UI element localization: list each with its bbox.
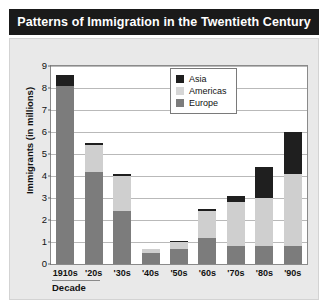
bar-group bbox=[56, 66, 74, 264]
page-title: Patterns of Immigration in the Twentieth… bbox=[17, 15, 310, 29]
bar-segment-americas bbox=[170, 242, 188, 249]
bar-segment-asia bbox=[85, 143, 103, 145]
legend-label-europe: Europe bbox=[189, 99, 218, 108]
x-axis-underline bbox=[52, 280, 100, 281]
y-axis-title: Immigrants (in millions) bbox=[24, 71, 35, 211]
bar-segment-americas bbox=[142, 249, 160, 253]
y-axis-tick-label: 5 bbox=[42, 149, 47, 159]
legend-item-americas: Americas bbox=[176, 85, 227, 97]
bar-segment-europe bbox=[198, 238, 216, 264]
chart-panel: Immigrants (in millions) 0123456789 1910… bbox=[9, 38, 319, 300]
legend-label-asia: Asia bbox=[189, 75, 207, 84]
y-axis-tick-label: 6 bbox=[42, 127, 47, 137]
legend-item-asia: Asia bbox=[176, 73, 227, 85]
chart-figure: Patterns of Immigration in the Twentieth… bbox=[0, 0, 328, 308]
bar-group bbox=[85, 66, 103, 264]
y-axis-tick-label: 7 bbox=[42, 105, 47, 115]
bar-segment-asia bbox=[170, 241, 188, 242]
legend-swatch-europe-icon bbox=[176, 99, 184, 107]
bar-segment-americas bbox=[255, 198, 273, 246]
bar-segment-asia bbox=[227, 196, 245, 203]
legend-swatch-americas-icon bbox=[176, 87, 184, 95]
legend-item-europe: Europe bbox=[176, 97, 227, 109]
y-axis-tick-label: 9 bbox=[42, 61, 47, 71]
y-axis-tick-label: 8 bbox=[42, 83, 47, 93]
bar-segment-europe bbox=[227, 246, 245, 264]
bar-segment-europe bbox=[85, 172, 103, 264]
y-axis-tick-label: 2 bbox=[42, 215, 47, 225]
chart-legend: Asia Americas Europe bbox=[170, 68, 237, 114]
bar-group bbox=[113, 66, 131, 264]
y-axis-tick-label: 3 bbox=[42, 193, 47, 203]
chart-title-banner: Patterns of Immigration in the Twentieth… bbox=[9, 9, 319, 35]
bar-segment-asia bbox=[113, 174, 131, 176]
bar-segment-asia bbox=[255, 167, 273, 198]
bar-group bbox=[255, 66, 273, 264]
y-axis-tick-label: 1 bbox=[42, 237, 47, 247]
bar-segment-asia bbox=[284, 132, 302, 174]
bar-segment-americas bbox=[284, 174, 302, 247]
bar-segment-americas bbox=[113, 176, 131, 211]
legend-swatch-asia-icon bbox=[176, 75, 184, 83]
bar-segment-europe bbox=[113, 211, 131, 264]
legend-label-americas: Americas bbox=[189, 87, 227, 96]
y-axis-tick-label: 4 bbox=[42, 171, 47, 181]
bar-segment-americas bbox=[198, 211, 216, 237]
bar-segment-europe bbox=[142, 253, 160, 264]
bar-segment-asia bbox=[198, 209, 216, 211]
bar-group bbox=[284, 66, 302, 264]
bar-segment-europe bbox=[56, 86, 74, 264]
bar-group bbox=[142, 66, 160, 264]
bar-segment-americas bbox=[227, 202, 245, 246]
bar-segment-asia bbox=[56, 75, 74, 86]
bar-segment-europe bbox=[284, 246, 302, 264]
x-axis-tick-label: '90s bbox=[273, 268, 313, 278]
bar-segment-americas bbox=[85, 145, 103, 171]
bar-segment-europe bbox=[170, 249, 188, 264]
bar-segment-europe bbox=[255, 246, 273, 264]
x-axis-title: Decade bbox=[52, 282, 86, 293]
